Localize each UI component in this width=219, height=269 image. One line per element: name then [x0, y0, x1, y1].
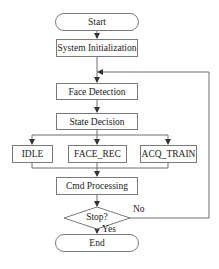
start-label: Start [88, 17, 106, 27]
system-init-node: System Initialization [56, 39, 138, 57]
acq-train-label: ACQ_TRAIN [142, 149, 196, 159]
yes-edge-label: Yes [102, 224, 116, 234]
idle-node: IDLE [12, 145, 53, 163]
face-detection-node: Face Detection [56, 83, 138, 100]
acq-train-node: ACQ_TRAIN [140, 145, 197, 163]
flowchart-canvas: Start System Initialization Face Detecti… [0, 0, 219, 269]
no-edge-label: No [133, 204, 145, 214]
state-decision-label: State Decision [69, 117, 124, 127]
state-decision-node: State Decision [56, 113, 138, 130]
stop-decision-label: Stop? [64, 212, 130, 222]
face-rec-node: FACE_REC [68, 145, 127, 163]
start-node: Start [55, 13, 139, 31]
face-rec-label: FACE_REC [74, 149, 121, 159]
end-label: End [89, 238, 104, 248]
cmd-processing-node: Cmd Processing [56, 177, 138, 195]
idle-label: IDLE [22, 149, 44, 159]
system-init-label: System Initialization [58, 43, 137, 53]
face-detection-label: Face Detection [68, 87, 125, 97]
cmd-processing-label: Cmd Processing [66, 181, 128, 191]
end-node: End [55, 234, 139, 252]
